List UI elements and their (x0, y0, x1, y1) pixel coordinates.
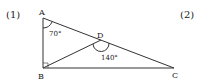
point-label-d: D (97, 31, 103, 40)
point-label-a: A (38, 8, 45, 17)
angle-arc-a (43, 22, 52, 28)
point-label-b: B (38, 72, 44, 81)
problem-label-2: (2) (180, 9, 194, 20)
angle-label-a: 70° (49, 30, 61, 38)
point-label-c: C (172, 71, 178, 80)
triangle-diagram: (1) (2) A B C D 70° 140° (0, 0, 200, 83)
angle-label-d: 140° (101, 54, 118, 62)
angle-arc-d (93, 43, 109, 52)
problem-label-1: (1) (6, 9, 20, 20)
segment-bd (43, 40, 101, 68)
